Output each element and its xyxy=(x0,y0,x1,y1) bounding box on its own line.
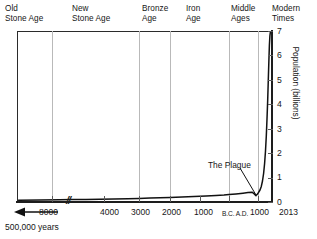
x-label-2000: 2000 xyxy=(162,208,181,217)
left-arrow-icon xyxy=(14,206,60,218)
era-header-old-stone-age: Old Stone Age xyxy=(5,4,43,23)
y-label-3: 3 xyxy=(277,125,282,134)
y-label-5: 5 xyxy=(277,76,282,85)
y-tick-3 xyxy=(268,129,273,130)
y-axis-title: Population (billions) xyxy=(291,35,301,131)
y-tick-5 xyxy=(268,80,273,81)
y-tick-6 xyxy=(268,55,273,56)
x-tick-1 xyxy=(52,196,53,202)
y-label-2: 2 xyxy=(277,149,282,158)
era-header-new-stone-age: New Stone Age xyxy=(72,4,110,23)
y-tick-4 xyxy=(268,104,273,105)
x-label-4000: 4000 xyxy=(100,208,119,217)
x-label-2013: 2013 xyxy=(279,208,298,217)
era-header-bronze-age: Bronze Age xyxy=(142,4,168,23)
plague-leader-line xyxy=(200,165,270,205)
y-label-4: 4 xyxy=(277,100,282,109)
x-label-1000ad: 1000 xyxy=(250,208,269,217)
x-label-3000: 3000 xyxy=(131,208,150,217)
era-divider-1 xyxy=(52,31,53,202)
era-divider-2 xyxy=(139,31,140,202)
y-tick-7 xyxy=(268,31,273,32)
x-tick-2 xyxy=(104,196,105,202)
x-tick-3 xyxy=(139,196,140,202)
population-history-chart: Old Stone Age New Stone Age Bronze Age I… xyxy=(0,0,317,239)
axis-break-icon: // xyxy=(66,193,80,207)
y-label-1: 1 xyxy=(277,173,282,182)
y-label-6: 6 xyxy=(277,51,282,60)
span-duration-note: 500,000 years xyxy=(5,222,59,232)
era-header-iron-age: Iron Age xyxy=(186,4,201,23)
era-divider-3 xyxy=(170,31,171,202)
y-label-0: 0 xyxy=(277,198,282,207)
y-tick-2 xyxy=(268,153,273,154)
era-header-middle-ages: Middle Ages xyxy=(231,4,255,23)
x-label-1000bc: 1000 xyxy=(194,208,213,217)
era-header-modern-times: Modern Times xyxy=(272,4,300,23)
y-label-7: 7 xyxy=(277,27,282,36)
x-label-bc-ad: B.C. A.D. xyxy=(222,209,248,218)
x-tick-4 xyxy=(170,196,171,202)
